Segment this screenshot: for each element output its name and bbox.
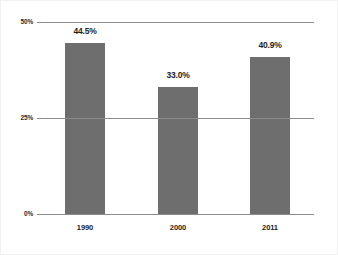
x-tick-label-1990: 1990 [55, 224, 115, 232]
bar-value-label-2011: 40.9% [240, 41, 300, 50]
gridline-50 [37, 22, 314, 23]
gridline-25 [37, 118, 314, 119]
bar-2000[interactable] [158, 87, 198, 214]
x-tick-label-2011: 2011 [240, 224, 300, 232]
plot-area: 50% 25% 0% 44.5% 1990 33.0% 2000 40.9% 2… [1, 1, 337, 254]
bar-value-label-1990: 44.5% [55, 27, 115, 36]
x-tick-label-2000: 2000 [148, 224, 208, 232]
y-tick-label-50: 50% [1, 19, 33, 26]
y-tick-label-0: 0% [1, 211, 33, 218]
bar-value-label-2000: 33.0% [148, 71, 208, 80]
y-tick-label-25: 25% [1, 115, 33, 122]
axis-baseline-0 [37, 214, 314, 215]
bar-2011[interactable] [250, 57, 290, 214]
bar-1990[interactable] [65, 43, 105, 214]
bar-chart-figure: 50% 25% 0% 44.5% 1990 33.0% 2000 40.9% 2… [0, 0, 338, 255]
